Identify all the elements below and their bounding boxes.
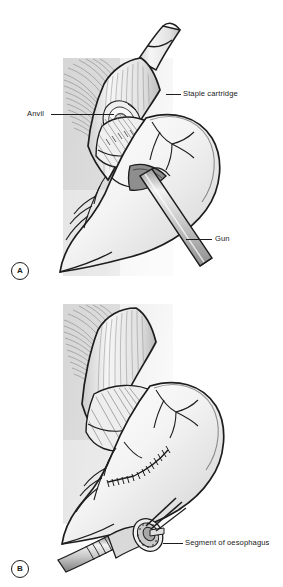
leader-anvil <box>51 114 114 115</box>
figure-root: Anvil Staple cartridge Gun A <box>0 0 283 587</box>
panel-tag-b: B <box>11 560 29 578</box>
inset-anvil-post <box>150 528 164 536</box>
panel-tag-a: A <box>11 262 29 280</box>
panel-a: Anvil Staple cartridge Gun A <box>0 0 283 290</box>
panel-b: Segment of oesophagus B <box>0 290 283 587</box>
label-staple-cartridge: Staple cartridge <box>183 89 238 98</box>
label-gun: Gun <box>215 234 230 243</box>
leader-segment-of-oesophagus <box>163 543 183 544</box>
leader-staple-cartridge <box>166 94 181 95</box>
panel-a-artwork <box>0 0 283 290</box>
label-segment-of-oesophagus: Segment of oesophagus <box>185 538 269 547</box>
leader-gun <box>186 239 212 240</box>
label-anvil: Anvil <box>27 109 44 118</box>
